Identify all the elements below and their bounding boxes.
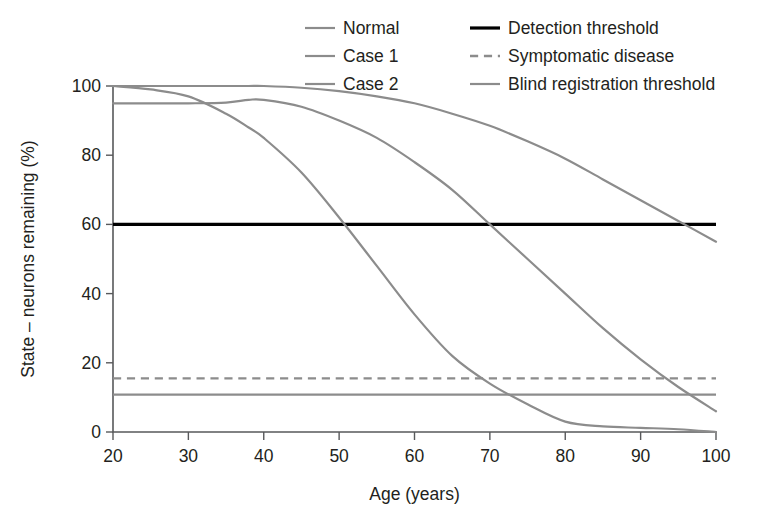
x-tick-label-90: 90 bbox=[631, 446, 651, 466]
chart-figure: 0204060801002030405060708090100 Age (yea… bbox=[0, 0, 760, 518]
x-tick-label-40: 40 bbox=[254, 446, 274, 466]
x-tick-label-100: 100 bbox=[701, 446, 730, 466]
x-axis-title: Age (years) bbox=[369, 484, 459, 504]
y-tick-label-0: 0 bbox=[91, 422, 101, 442]
x-tick-label-50: 50 bbox=[329, 446, 349, 466]
legend-label: Case 1 bbox=[343, 46, 398, 66]
legend-label: Normal bbox=[343, 18, 399, 38]
legend-label: Blind registration threshold bbox=[508, 74, 715, 94]
x-tick-label-30: 30 bbox=[179, 446, 199, 466]
chart-legend: NormalCase 1Case 2Detection thresholdSym… bbox=[305, 18, 715, 94]
y-axis-title: State – neurons remaining (%) bbox=[18, 140, 38, 377]
legend-label: Case 2 bbox=[343, 74, 398, 94]
y-tick-label-60: 60 bbox=[82, 214, 102, 234]
y-tick-label-80: 80 bbox=[82, 145, 102, 165]
y-tick-label-20: 20 bbox=[82, 353, 102, 373]
y-tick-label-100: 100 bbox=[72, 76, 101, 96]
y-tick-label-40: 40 bbox=[82, 284, 102, 304]
x-tick-label-80: 80 bbox=[556, 446, 576, 466]
x-tick-label-20: 20 bbox=[103, 446, 123, 466]
x-tick-label-60: 60 bbox=[405, 446, 425, 466]
neuron-loss-line-chart: 0204060801002030405060708090100 Age (yea… bbox=[0, 0, 760, 518]
legend-label: Symptomatic disease bbox=[508, 46, 674, 66]
x-tick-label-70: 70 bbox=[480, 446, 500, 466]
legend-label: Detection threshold bbox=[508, 18, 659, 38]
